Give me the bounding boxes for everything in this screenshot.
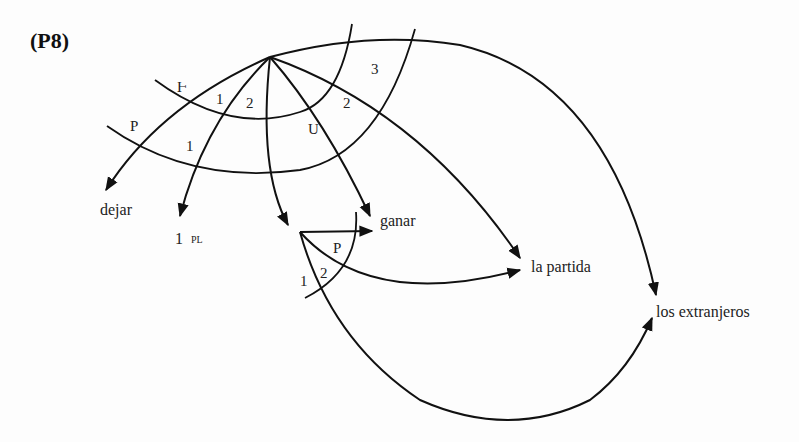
arc-to-ganar [270,57,370,216]
label-stratum-top-left: Ⱶ [177,79,187,95]
arc-to-complement [267,57,288,225]
sub-arc-to-ganar [300,231,372,232]
label-arc-1b: 1 [186,138,194,154]
arc-to-1pl [180,57,270,216]
stratum-arc-inner [155,24,352,119]
stratum-arc-outer [107,29,415,173]
sub-stratum-arc [305,212,356,298]
label-stratum-P: P [130,118,138,134]
label-sub-P: P [333,240,341,256]
relational-network-diagram: (P8) Ⱶ P 1 2 1 U 2 3 P 2 1 dejar 1 PL ga… [0,0,799,442]
terminal-los-extranjeros: los extranjeros [656,303,750,321]
terminal-la-partida: la partida [531,258,591,276]
terminal-dejar: dejar [100,201,133,219]
label-arc-U: U [308,121,319,137]
diagram-canvas: (P8) Ⱶ P 1 2 1 U 2 3 P 2 1 dejar 1 PL ga… [0,0,799,442]
terminal-1pl: 1 [175,230,183,247]
label-arc-3: 3 [371,61,379,77]
diagram-title: (P8) [30,28,69,53]
label-arc-2a: 2 [246,95,254,111]
label-arc-2b: 2 [343,95,351,111]
label-arc-1a: 1 [216,91,224,107]
terminal-ganar: ganar [380,212,416,230]
terminal-1pl-subscript: PL [191,234,203,245]
label-sub-2: 2 [320,265,328,281]
sub-arc-to-los-extranjeros [300,232,652,420]
label-sub-1: 1 [300,273,308,289]
